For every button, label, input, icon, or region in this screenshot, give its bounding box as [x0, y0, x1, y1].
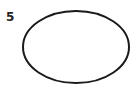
- ellipse-shape: [0, 0, 138, 89]
- ellipse-outline: [23, 11, 129, 83]
